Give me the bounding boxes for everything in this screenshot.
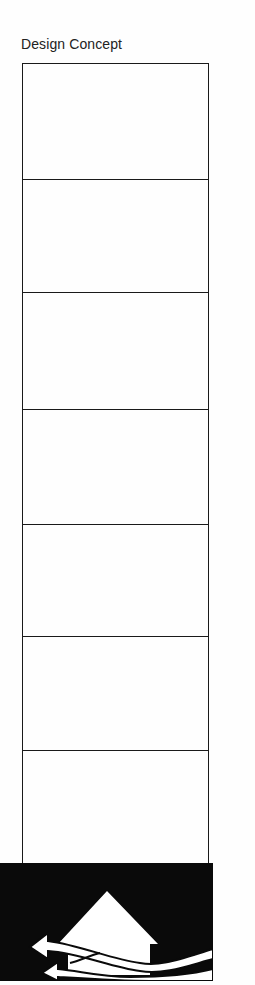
stack-divider (23, 524, 208, 525)
stack-divider (23, 636, 208, 637)
stack-divider (23, 179, 208, 180)
stack-divider (23, 292, 208, 293)
page-title: Design Concept (21, 36, 122, 52)
house-with-airflow-arrows-icon (0, 863, 213, 981)
stack-divider (23, 750, 208, 751)
stack-divider (23, 409, 208, 410)
concept-stack (22, 63, 209, 863)
